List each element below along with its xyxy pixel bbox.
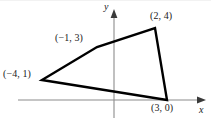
y-axis-arrowhead	[111, 9, 118, 18]
vertex-label-minus1-3: (−1, 3)	[55, 32, 83, 43]
plot-canvas	[0, 0, 211, 125]
vertex-label-3-0: (3, 0)	[151, 102, 173, 113]
vertex-label-minus4-1: (−4, 1)	[3, 68, 31, 79]
axes-group	[18, 9, 206, 118]
coordinate-plane-figure: (−4, 1) (−1, 3) (2, 4) (3, 0) x y	[0, 0, 211, 125]
x-axis-arrowhead	[197, 96, 206, 103]
vertex-label-2-4: (2, 4)	[150, 10, 172, 21]
y-axis-label: y	[104, 1, 108, 12]
x-axis-label: x	[199, 104, 203, 115]
